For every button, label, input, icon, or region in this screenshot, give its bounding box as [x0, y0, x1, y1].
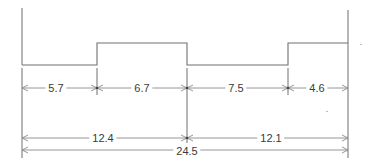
arrowheads [22, 85, 348, 153]
scan-speck [360, 44, 362, 45]
dimension-label-left-half: 12.4 [89, 132, 116, 144]
dimension-diagram: 5.7 6.7 7.5 4.6 12.4 12.1 24.5 [0, 0, 373, 168]
dimension-label-right-half: 12.1 [257, 132, 284, 144]
dimension-label-segment-4: 4.6 [306, 82, 327, 94]
dimension-label-segment-1: 5.7 [45, 82, 66, 94]
dimension-label-segment-3: 7.5 [225, 82, 246, 94]
dimension-label-total: 24.5 [173, 145, 200, 157]
dimension-label-segment-2: 6.7 [131, 82, 152, 94]
stepped-profile [22, 43, 348, 65]
scan-speck [326, 111, 328, 112]
